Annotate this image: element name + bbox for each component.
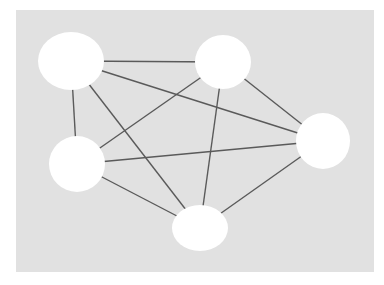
graph-diagram — [0, 0, 384, 285]
node-a — [38, 32, 104, 90]
node-c — [49, 136, 105, 192]
node-e — [172, 205, 228, 251]
node-b — [195, 35, 251, 89]
node-d — [296, 113, 350, 169]
